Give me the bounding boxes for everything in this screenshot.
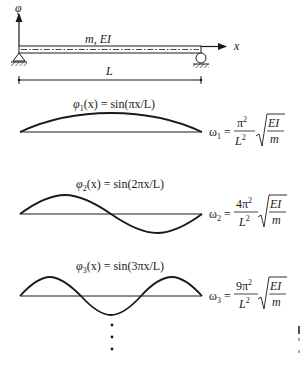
mode-3-frequency: ω3 = 9π2 L2 EI m [209, 277, 287, 311]
mode-3-shape-label: φ3(x) = sin(3πx/L) [76, 259, 164, 275]
mode-1-shape-curve [20, 113, 202, 132]
svg-text:4π2: 4π2 [236, 196, 252, 211]
roller-support-icon [193, 53, 209, 68]
svg-text:EI: EI [269, 279, 282, 293]
svg-text:π2: π2 [237, 115, 247, 130]
x-axis-label: x [233, 39, 240, 53]
svg-text:ω2 =: ω2 = [209, 207, 231, 223]
svg-text:m: m [272, 213, 281, 227]
svg-text:m: m [270, 132, 279, 146]
cropped-caption-fragment [298, 326, 300, 353]
mode-1-shape-label: φ1(x) = sin(πx/L) [73, 97, 155, 113]
svg-text:m: m [272, 295, 281, 309]
mode-2: φ2(x) = sin(2πx/L) ω2 = 4π2 L2 EI m [20, 177, 287, 233]
svg-text:EI: EI [267, 116, 280, 130]
mode-3: φ3(x) = sin(3πx/L) ω3 = 9π2 L2 EI m [20, 259, 287, 315]
svg-text:ω3 =: ω3 = [209, 289, 231, 305]
continuation-dots [111, 324, 114, 351]
phi-axis-label: φ [15, 1, 22, 15]
pin-support-icon [11, 53, 27, 66]
svg-text:9π2: 9π2 [236, 278, 252, 293]
svg-text:L2: L2 [234, 133, 246, 148]
svg-text:L2: L2 [238, 214, 250, 229]
beam-properties-label: m, EI [85, 32, 112, 46]
mode-1: φ1(x) = sin(πx/L) ω1 = π2 L2 EI m [20, 97, 285, 148]
mode-2-shape-label: φ2(x) = sin(2πx/L) [76, 177, 164, 193]
mode-1-frequency: ω1 = π2 L2 EI m [209, 114, 285, 148]
beam-schematic: φ x m, EI L [11, 1, 240, 84]
svg-text:EI: EI [269, 197, 282, 211]
length-label: L [105, 64, 113, 78]
svg-text:ω1 =: ω1 = [209, 125, 231, 141]
svg-text:L2: L2 [238, 296, 250, 311]
beam-mode-shapes-diagram: φ x m, EI L [0, 0, 302, 367]
mode-2-frequency: ω2 = 4π2 L2 EI m [209, 195, 287, 229]
